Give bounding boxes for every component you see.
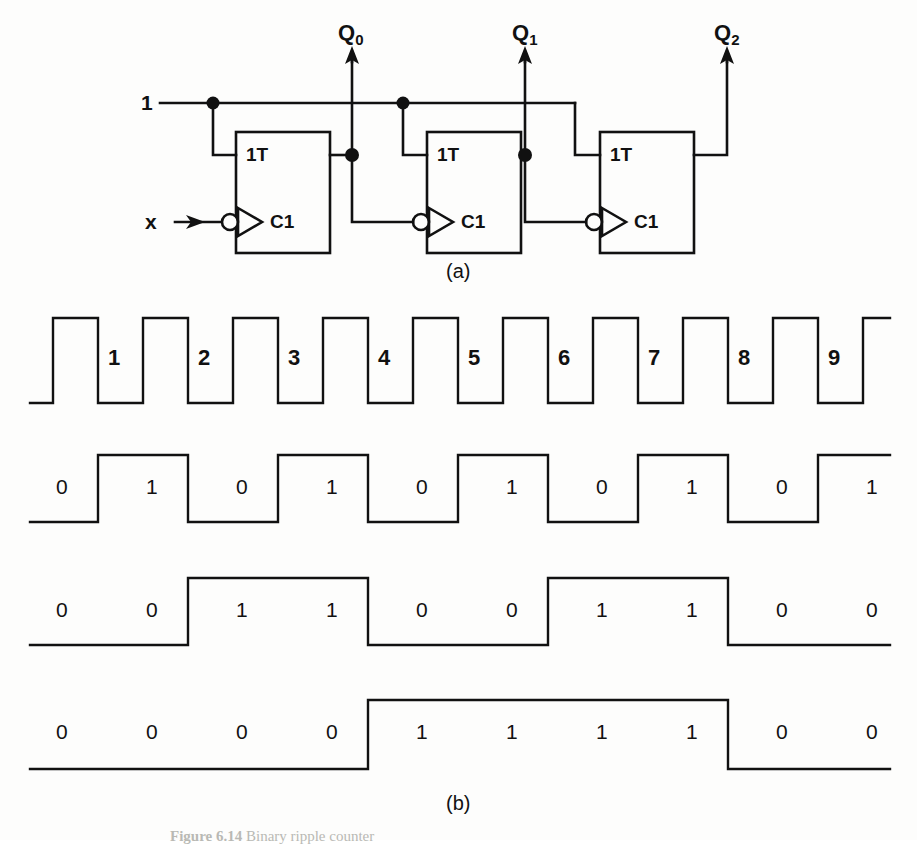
q2-bit-label-3: 0 [326,721,338,742]
q0-bit-label-5: 1 [506,476,518,497]
q1-bit-label-4: 0 [416,599,428,620]
clock-pulse-label-9: 9 [828,347,840,369]
q1-bit-label-8: 0 [776,599,788,620]
q2-bit-label-5: 1 [506,721,518,742]
q2-bit-label-0: 0 [56,721,68,742]
clock-pulse-label-1: 1 [108,347,120,369]
q1-bit-label-9: 0 [866,599,878,620]
clock-pulse-label-4: 4 [378,347,390,369]
q2-bit-label-1: 0 [146,721,158,742]
q1-bit-label-3: 1 [326,599,338,620]
q0-bit-label-1: 1 [146,476,158,497]
q0-bit-label-2: 0 [236,476,248,497]
q2-bit-label-8: 0 [776,721,788,742]
q1-bit-label-0: 0 [56,599,68,620]
q1-bit-label-2: 1 [236,599,248,620]
q0-bit-label-0: 0 [56,476,68,497]
figure-caption-text: Binary ripple counter [246,828,374,844]
clock-pulse-label-3: 3 [288,347,300,369]
q2-bit-label-7: 1 [686,721,698,742]
q0-bit-label-6: 0 [596,476,608,497]
figure-caption: Figure 6.14 Binary ripple counter [170,829,374,844]
q1-bit-label-6: 1 [596,599,608,620]
q1-bit-label-7: 1 [686,599,698,620]
q2-bit-label-6: 1 [596,721,608,742]
q1-waveform [30,578,890,645]
clock-waveform [30,318,890,403]
clock-pulse-label-5: 5 [468,347,480,369]
figure-caption-label: Figure 6.14 [170,828,242,844]
q0-bit-label-8: 0 [776,476,788,497]
clock-pulse-label-7: 7 [648,347,660,369]
q1-bit-label-5: 0 [506,599,518,620]
q0-waveform [30,455,890,522]
q0-bit-label-4: 0 [416,476,428,497]
q2-waveform [30,700,890,769]
clock-pulse-label-6: 6 [558,347,570,369]
clock-pulse-label-8: 8 [738,347,750,369]
q0-bit-label-7: 1 [686,476,698,497]
q2-bit-label-4: 1 [416,721,428,742]
q0-bit-label-9: 1 [866,476,878,497]
clock-pulse-label-2: 2 [198,347,210,369]
subfigure-caption-b: (b) [446,793,470,813]
q0-bit-label-3: 1 [326,476,338,497]
q2-bit-label-9: 0 [866,721,878,742]
q2-bit-label-2: 0 [236,721,248,742]
q1-bit-label-1: 0 [146,599,158,620]
